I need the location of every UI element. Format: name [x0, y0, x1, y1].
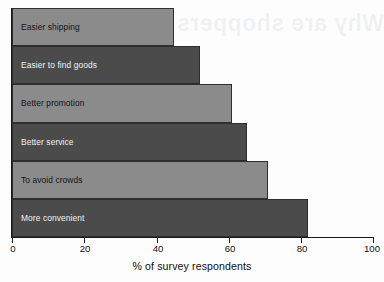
bar-row: Easier shipping — [12, 8, 373, 46]
bar-label: Easier shipping — [13, 22, 80, 32]
x-axis-title: % of survey respondents — [0, 260, 384, 272]
x-axis-line — [12, 237, 374, 238]
bar-label: Better service — [13, 137, 74, 147]
bar-better-promotion[interactable]: Better promotion — [12, 84, 232, 122]
x-tick-label-100: 100 — [364, 243, 380, 254]
x-tick-mark — [12, 238, 13, 243]
x-tick-label-20: 20 — [80, 243, 91, 254]
bar-row: Better promotion — [12, 84, 373, 122]
bar-row: More convenient — [12, 199, 373, 237]
plot-area: Easier shipping Easier to find goods Bet… — [12, 8, 373, 237]
bar-to-avoid-crowds[interactable]: To avoid crowds — [12, 161, 268, 199]
bar-more-convenient[interactable]: More convenient — [12, 199, 308, 237]
bar-easier-shipping[interactable]: Easier shipping — [12, 8, 174, 46]
bar-label: Easier to find goods — [13, 60, 97, 70]
x-tick-label-80: 80 — [297, 243, 308, 254]
x-tick-label-60: 60 — [225, 243, 236, 254]
y-axis-line — [11, 8, 12, 238]
bar-chart: Easier shipping Easier to find goods Bet… — [0, 0, 384, 282]
x-tick-mark — [301, 238, 302, 243]
x-tick-mark — [229, 238, 230, 243]
bar-row: To avoid crowds — [12, 161, 373, 199]
bar-easier-to-find-goods[interactable]: Easier to find goods — [12, 46, 200, 84]
x-tick-label-40: 40 — [153, 243, 164, 254]
x-tick-mark — [84, 238, 85, 243]
x-tick-mark — [157, 238, 158, 243]
x-tick-mark — [373, 238, 374, 243]
bar-label: Better promotion — [13, 98, 85, 108]
bar-label: To avoid crowds — [13, 175, 83, 185]
bar-row: Better service — [12, 123, 373, 161]
x-tick-label-0: 0 — [10, 243, 15, 254]
bar-better-service[interactable]: Better service — [12, 123, 247, 161]
bar-label: More convenient — [13, 213, 84, 223]
bar-row: Easier to find goods — [12, 46, 373, 84]
